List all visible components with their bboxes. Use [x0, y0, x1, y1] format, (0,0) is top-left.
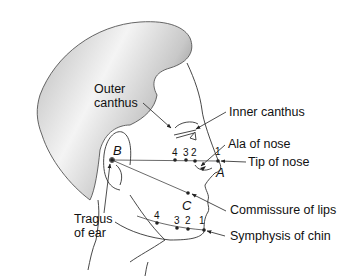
lower-marker-4: 4	[154, 210, 160, 221]
upper-marker-3: 3	[183, 147, 189, 158]
label-ala-of-nose: Ala of nose	[228, 137, 291, 151]
lower-marker-1: 1	[199, 215, 205, 226]
point-c-label: C	[182, 198, 192, 213]
upper-marker-4: 4	[172, 147, 178, 158]
label-symphysis-of-chin: Symphysis of chin	[230, 229, 331, 243]
label-outer-canthus-line2: canthus	[94, 96, 138, 110]
label-tragus-line2: of ear	[74, 226, 106, 240]
eye-drawing	[174, 122, 198, 140]
label-tip-of-nose: Tip of nose	[248, 155, 309, 169]
lower-marker-2: 2	[185, 215, 191, 226]
facial-landmarks-diagram: 4 3 2 1 4 3 2 1 B A C Outer canthus	[0, 0, 357, 280]
label-commissure-of-lips: Commissure of lips	[230, 203, 336, 217]
point-a-label: A	[215, 165, 225, 180]
hair-shape	[37, 22, 192, 200]
cut-off-caption	[0, 271, 357, 280]
label-inner-canthus: Inner canthus	[229, 105, 305, 119]
label-tragus-line1: Tragus	[74, 212, 112, 226]
point-b-label: B	[113, 143, 122, 158]
upper-marker-2: 2	[191, 147, 197, 158]
label-outer-canthus-line1: Outer	[94, 82, 125, 96]
lower-marker-3: 3	[174, 215, 180, 226]
